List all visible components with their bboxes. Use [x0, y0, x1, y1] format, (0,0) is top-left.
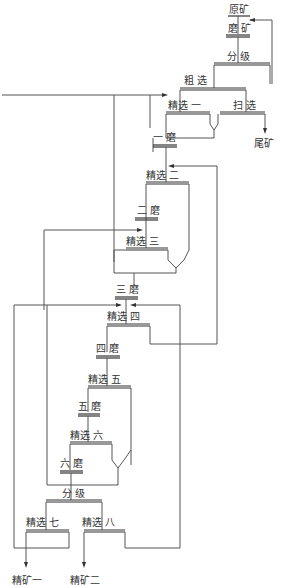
svg-text:三 磨: 三 磨: [116, 284, 139, 295]
svg-text:精选 五: 精选 五: [88, 373, 121, 385]
node-regrind-4: 四 磨: [96, 343, 120, 358]
svg-text:精选 三: 精选 三: [126, 235, 159, 247]
node-classify-2: 分 级: [46, 488, 102, 502]
svg-text:粗 选: 粗 选: [184, 74, 207, 86]
node-raw-ore: 原矿: [228, 3, 250, 16]
node-regrind-6: 六 磨: [60, 458, 83, 473]
svg-text:精选 四: 精选 四: [107, 310, 140, 322]
svg-text:分 级: 分 级: [62, 488, 85, 499]
svg-text:二 磨: 二 磨: [137, 205, 160, 216]
svg-text:分 级: 分 级: [227, 51, 250, 62]
flowsheet-diagram: 原矿 磨 矿 分 级 粗 选 精选 一 扫 选: [0, 0, 283, 588]
node-cleaner-4: 精选 四: [107, 310, 150, 326]
node-cleaner-6: 精选 六: [70, 429, 112, 444]
node-tailings: 尾矿: [254, 137, 274, 149]
svg-text:精选 一: 精选 一: [168, 99, 201, 111]
node-regrind-5: 五 磨: [78, 401, 101, 416]
node-cleaner-2: 精选 二: [146, 169, 189, 184]
node-regrind-2: 二 磨: [135, 205, 160, 220]
node-regrind-3: 三 磨: [115, 284, 139, 299]
node-regrind-1: 一 磨: [153, 132, 177, 147]
svg-text:精选 六: 精选 六: [70, 429, 103, 441]
node-concentrate-2: 精矿二: [70, 574, 100, 586]
svg-text:四 磨: 四 磨: [96, 343, 119, 354]
arrow-icon: [249, 18, 255, 22]
svg-text:五 磨: 五 磨: [78, 401, 101, 412]
node-cleaner-1: 精选 一: [166, 99, 210, 114]
svg-text:扫 选: 扫 选: [233, 99, 256, 111]
node-cleaner-5: 精选 五: [88, 373, 131, 388]
node-concentrate-1: 精矿一: [12, 574, 42, 586]
node-cleaner-7: 精选 七: [26, 516, 69, 532]
node-cleaner-3: 精选 三: [126, 235, 168, 250]
node-rougher: 粗 选: [180, 74, 246, 90]
svg-text:精选 八: 精选 八: [82, 516, 115, 528]
node-grinding: 磨 矿: [226, 22, 251, 37]
svg-text:磨 矿: 磨 矿: [228, 22, 251, 34]
svg-text:精选 七: 精选 七: [26, 516, 59, 528]
svg-text:六 磨: 六 磨: [60, 458, 83, 469]
node-scavenger: 扫 选: [220, 99, 265, 114]
svg-text:原矿: 原矿: [229, 3, 249, 15]
svg-text:一 磨: 一 磨: [153, 132, 176, 143]
node-classify-1: 分 级: [214, 51, 270, 65]
svg-text:精选 二: 精选 二: [146, 169, 179, 181]
node-cleaner-8: 精选 八: [82, 516, 125, 532]
